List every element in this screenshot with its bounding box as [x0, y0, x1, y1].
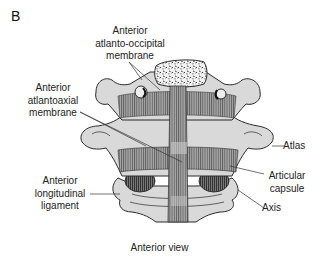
label-line: Axis — [262, 202, 281, 215]
basion-cross-section — [155, 60, 207, 87]
label-line: Atlas — [283, 140, 305, 153]
label-line: atlantoaxial — [18, 95, 88, 108]
label-articular-capsule: Articular capsule — [262, 170, 312, 195]
label-line: atlanto-occipital — [84, 38, 176, 51]
label-line: Anterior — [18, 82, 88, 95]
figure-caption: Anterior view — [0, 242, 319, 253]
label-line: ligament — [28, 200, 92, 213]
label-line: membrane — [84, 50, 176, 63]
label-axis: Axis — [262, 202, 281, 215]
label-line: membrane — [18, 107, 88, 120]
label-anterior-atlantoaxial-membrane: Anterior atlantoaxial membrane — [18, 82, 88, 120]
label-anterior-longitudinal-ligament: Anterior longitudinal ligament — [28, 175, 92, 213]
label-line: Articular — [262, 170, 312, 183]
label-line: Anterior — [28, 175, 92, 188]
label-line: capsule — [262, 183, 312, 196]
label-line: longitudinal — [28, 188, 92, 201]
label-atlas: Atlas — [283, 140, 305, 153]
label-anterior-atlanto-occipital-membrane: Anterior atlanto-occipital membrane — [84, 25, 176, 63]
label-line: Anterior — [84, 25, 176, 38]
